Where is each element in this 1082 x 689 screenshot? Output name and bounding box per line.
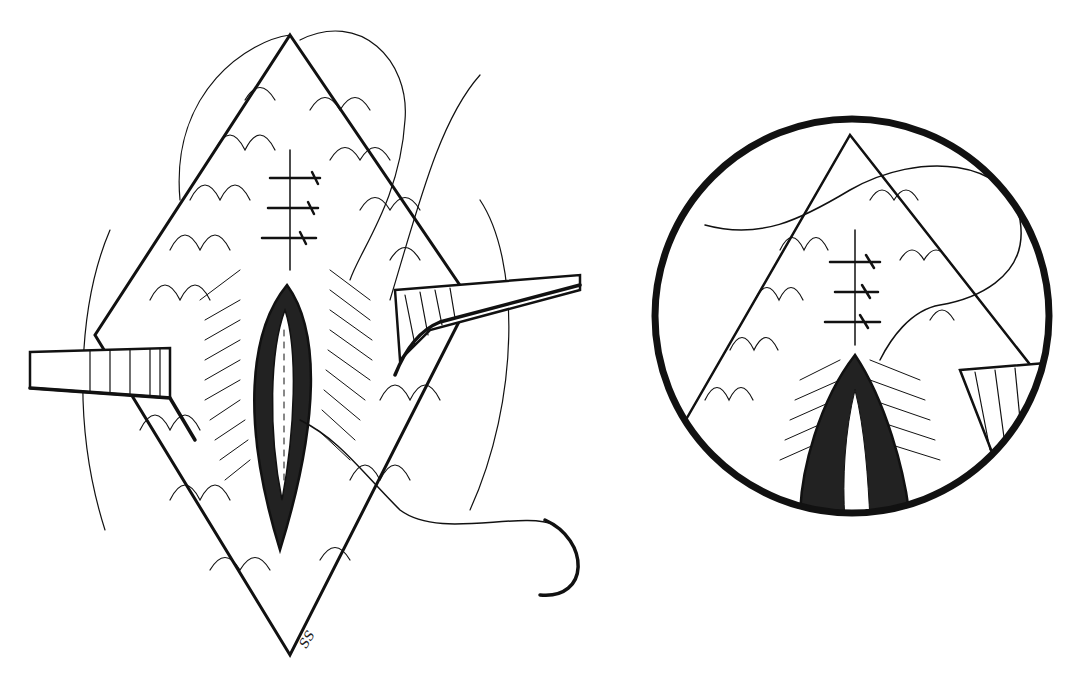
illustration-canvas xyxy=(0,0,1082,689)
main-incision-drawing xyxy=(30,31,580,655)
inset-detail-drawing xyxy=(640,119,1082,520)
